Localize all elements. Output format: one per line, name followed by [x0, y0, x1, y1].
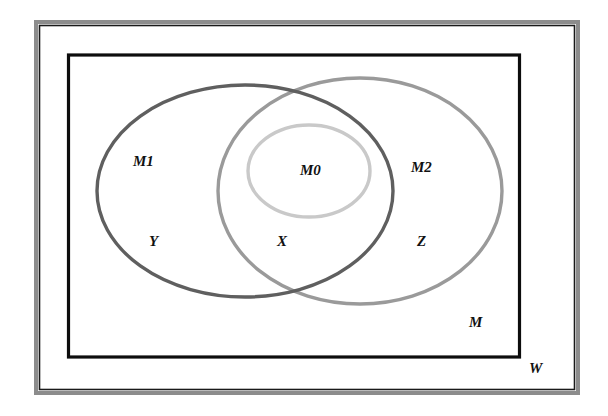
- venn-diagram: M1 M0 M2 Y X Z M W: [0, 0, 608, 416]
- label-x: X: [276, 233, 288, 249]
- label-w: W: [529, 360, 544, 376]
- universe-frame-outer: [36, 22, 578, 393]
- label-m1: M1: [132, 153, 154, 169]
- container-m-rect: [69, 55, 520, 357]
- label-m0: M0: [299, 162, 321, 178]
- universe-frame-line: [40, 26, 575, 390]
- label-m2: M2: [410, 159, 432, 175]
- universe-frame: [36, 22, 578, 393]
- label-z: Z: [416, 233, 426, 249]
- set-m1-ellipse: [97, 85, 393, 297]
- set-m2-ellipse: [218, 78, 502, 304]
- label-m: M: [468, 314, 483, 330]
- label-y: Y: [149, 233, 160, 249]
